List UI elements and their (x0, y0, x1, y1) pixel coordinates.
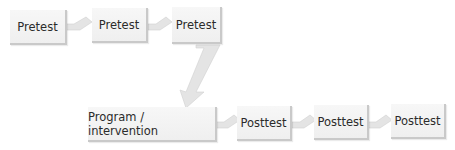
arrow-posttest2-to-posttest3 (368, 115, 392, 128)
intervention-label: Program / intervention (88, 110, 215, 138)
posttest-label-2: Posttest (317, 115, 363, 129)
posttest-box-2: Posttest (314, 105, 369, 140)
arrow-pretest2-to-pretest3 (148, 17, 172, 30)
arrow-pretest1-to-pretest2 (66, 17, 92, 30)
connectors (0, 0, 455, 150)
posttest-box-3: Posttest (391, 104, 446, 139)
pretest-box-2: Pretest (92, 8, 148, 43)
arrow-pretest3-to-intervention (180, 45, 220, 108)
arrow-posttest1-to-posttest2 (292, 115, 316, 128)
pretest-label-2: Pretest (99, 18, 139, 32)
posttest-box-1: Posttest (237, 106, 292, 141)
pretest-box-1: Pretest (10, 10, 67, 45)
posttest-label-3: Posttest (394, 114, 440, 128)
pretest-label-3: Pretest (176, 18, 216, 32)
pretest-box-3: Pretest (172, 7, 222, 44)
pretest-label-1: Pretest (17, 20, 57, 34)
intervention-box: Program / intervention (88, 107, 217, 142)
posttest-label-1: Posttest (240, 116, 286, 130)
